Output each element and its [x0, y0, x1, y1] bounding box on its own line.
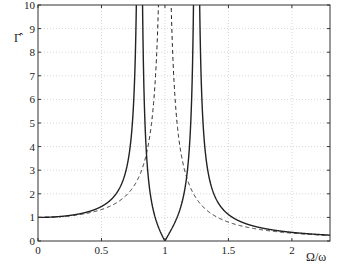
y-tick-label: 5: [30, 117, 36, 129]
y-tick-label: 1: [30, 211, 36, 223]
y-tick-label: 3: [30, 164, 36, 176]
y-tick-label: 2: [30, 188, 36, 200]
x-tick-label: 0.5: [95, 244, 109, 256]
y-tick-label: 10: [24, 0, 36, 11]
x-tick-label: 2: [289, 244, 295, 256]
y-tick-label: 8: [30, 46, 36, 58]
chart: 00.511.52012345678910 Γ̂ Ω/ω: [0, 0, 338, 273]
x-tick-label: 0: [35, 244, 41, 256]
figure-caption: [10, 262, 330, 273]
y-tick-label: 9: [30, 23, 36, 35]
curves: [38, 0, 330, 241]
y-axis-label: Γ̂: [14, 31, 23, 45]
y-tick-label: 6: [30, 93, 36, 105]
y-tick-label: 7: [30, 70, 36, 82]
plot-frame: [38, 5, 330, 241]
series-solid: [38, 0, 330, 241]
y-tick-label: 0: [30, 235, 36, 247]
x-tick-label: 1: [162, 244, 168, 256]
x-tick-label: 1.5: [222, 244, 236, 256]
grid: [38, 5, 330, 241]
series-dashed: [38, 0, 330, 236]
y-tick-label: 4: [30, 141, 36, 153]
